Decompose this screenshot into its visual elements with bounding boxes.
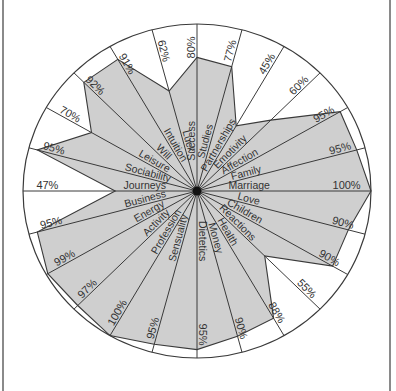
value-label: 70% [58, 103, 83, 125]
value-label: 95% [197, 324, 209, 346]
hub-dot [193, 187, 202, 196]
radar-chart: Success80%Studies77%Partnerships45%Emoti… [0, 0, 396, 391]
category-label: Marriage [228, 179, 270, 191]
value-label: 47% [36, 179, 58, 191]
value-label: 60% [287, 73, 311, 97]
category-label: Dietetics [197, 221, 209, 261]
value-label: 80% [185, 36, 197, 58]
value-label: 55% [295, 276, 319, 300]
value-label: 77% [221, 38, 238, 63]
value-label: 62% [155, 39, 172, 64]
center-hub [193, 187, 202, 196]
value-label: 100% [333, 179, 361, 191]
